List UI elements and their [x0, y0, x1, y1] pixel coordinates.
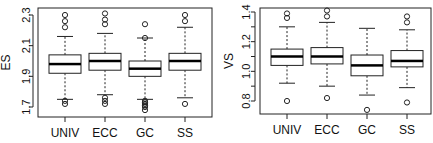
- y-tick-label: 1.4: [240, 4, 252, 19]
- x-tick-label-ss: SS: [177, 126, 193, 140]
- box-ecc: [89, 11, 121, 107]
- box-gc: [129, 22, 161, 113]
- y-tick-label: 1.7: [20, 99, 32, 114]
- outlier-point: [404, 20, 409, 25]
- box-gc: [351, 28, 383, 112]
- x-tick-label-univ: UNIV: [51, 126, 80, 140]
- y-tick-label: 2.3: [20, 7, 32, 22]
- x-tick-label-ecc: ECC: [314, 123, 340, 137]
- y-axis-label: VS: [222, 53, 236, 69]
- outlier-point: [182, 12, 187, 17]
- outlier-point: [62, 25, 67, 30]
- y-tick-label: 1.0: [240, 64, 252, 79]
- outlier-point: [182, 19, 187, 24]
- x-tick-label-gc: GC: [358, 123, 376, 137]
- es-boxplot-panel: 1.71.92.12.3ESUNIVECCGCSS: [0, 7, 212, 140]
- outlier-point: [324, 8, 329, 13]
- vs-boxplot-panel: 0.81.01.21.4VSUNIVECCGCSS: [222, 4, 431, 137]
- outlier-point: [284, 98, 289, 103]
- boxplot-figure: 1.71.92.12.3ESUNIVECCGCSS 0.81.01.21.4VS…: [0, 0, 433, 143]
- box-ecc: [311, 8, 343, 101]
- x-tick-label-ss: SS: [399, 123, 415, 137]
- outlier-point: [404, 100, 409, 105]
- outlier-point: [364, 107, 369, 112]
- x-tick-label-ecc: ECC: [92, 126, 118, 140]
- box-univ: [271, 11, 303, 104]
- iqr-box: [391, 51, 423, 67]
- x-tick-label-gc: GC: [136, 126, 154, 140]
- outlier-point: [62, 19, 67, 24]
- outlier-point: [102, 11, 107, 16]
- outlier-point: [324, 95, 329, 100]
- box-univ: [49, 12, 81, 106]
- outlier-point: [142, 22, 147, 27]
- box-ss: [391, 14, 423, 105]
- outlier-point: [404, 14, 409, 19]
- x-tick-label-univ: UNIV: [273, 123, 302, 137]
- y-tick-label: 0.8: [240, 93, 252, 108]
- box-ss: [169, 12, 201, 106]
- y-tick-label: 2.1: [20, 38, 32, 53]
- y-tick-label: 1.2: [240, 34, 252, 49]
- y-tick-label: 1.9: [20, 69, 32, 84]
- y-axis-label: ES: [0, 54, 13, 70]
- outlier-point: [182, 101, 187, 106]
- outlier-point: [324, 14, 329, 19]
- outlier-point: [62, 12, 67, 17]
